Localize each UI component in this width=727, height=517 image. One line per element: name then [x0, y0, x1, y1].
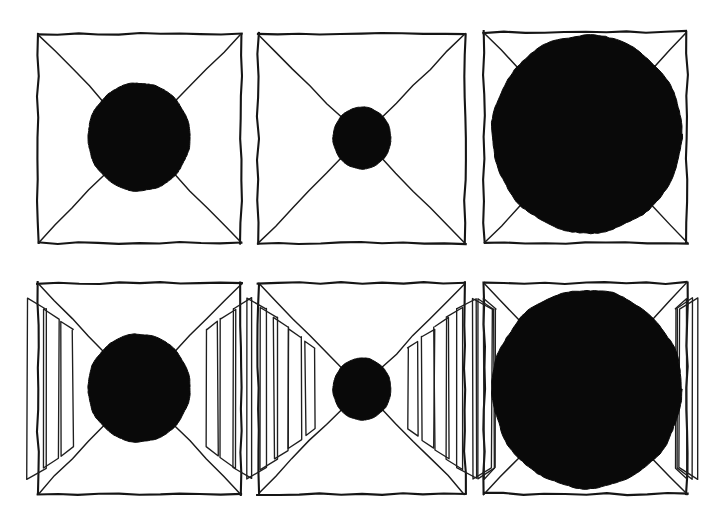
black-disc	[492, 290, 683, 489]
black-disc	[88, 83, 190, 191]
panel-top-right	[483, 31, 688, 244]
perspective-frames-figure: Perspective corridor size-constancy figu…	[0, 0, 727, 517]
black-disc	[491, 35, 682, 234]
black-disc	[88, 334, 190, 442]
black-disc	[333, 358, 391, 420]
figure-root: Perspective corridor size-constancy figu…	[0, 0, 727, 517]
black-disc	[333, 107, 391, 169]
